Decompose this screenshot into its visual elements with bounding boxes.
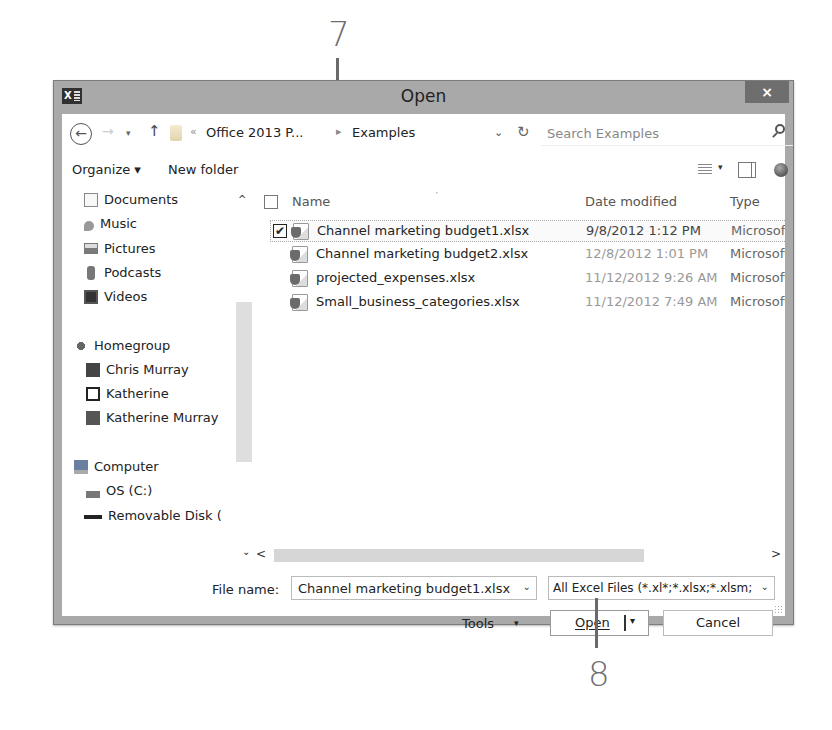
close-button[interactable]: ×	[745, 81, 789, 103]
file-date: 12/8/2012 1:01 PM	[585, 246, 708, 261]
user-avatar-icon	[86, 387, 100, 401]
help-icon[interactable]	[774, 163, 788, 177]
address-dropdown[interactable]: ⌄	[494, 126, 503, 139]
column-header-name[interactable]: Name	[292, 194, 330, 209]
drive-icon	[86, 484, 100, 498]
view-dropdown-arrow[interactable]: ▾	[718, 162, 723, 172]
folder-icon	[170, 125, 182, 141]
chevron-down-icon: ⌄	[761, 581, 769, 592]
breadcrumb-office-2013[interactable]: Office 2013 P...	[206, 125, 304, 140]
file-type: Microsoft	[730, 246, 785, 261]
file-row[interactable]: Small_business_categories.xlsx 11/12/201…	[270, 292, 785, 314]
up-button[interactable]: ↑	[148, 122, 161, 140]
scroll-right-icon[interactable]: >	[771, 547, 781, 561]
file-type-filter-dropdown[interactable]: All Excel Files (*.xl*;*.xlsx;*.xlsm; ⌄	[548, 576, 775, 600]
cancel-button[interactable]: Cancel	[663, 610, 773, 636]
excel-file-icon	[292, 246, 308, 263]
recent-locations-dropdown[interactable]: ▾	[126, 128, 131, 138]
nav-item-computer[interactable]: Computer	[74, 459, 159, 474]
nav-item-videos[interactable]: Videos	[84, 289, 147, 304]
excel-file-icon	[292, 294, 308, 311]
refresh-button[interactable]: ↻	[517, 123, 530, 141]
open-label: Open	[575, 615, 610, 630]
callout-number-8: 8	[588, 654, 610, 694]
file-date: 11/12/2012 7:49 AM	[585, 294, 718, 309]
nav-item-katherine[interactable]: Katherine	[86, 386, 169, 401]
nav-item-label: Katherine	[106, 386, 169, 401]
open-button[interactable]: Open ▾	[550, 610, 649, 636]
nav-item-label: Music	[100, 216, 137, 231]
column-header-type[interactable]: Type	[730, 194, 760, 209]
nav-scroll-down-icon[interactable]: ⌄	[242, 546, 250, 557]
nav-item-label: Pictures	[104, 241, 155, 256]
back-button[interactable]: ←	[70, 123, 92, 145]
new-folder-button[interactable]: New folder	[168, 162, 238, 177]
nav-item-label: Computer	[94, 459, 159, 474]
file-name-combobox: ⌄	[291, 576, 537, 600]
organize-button[interactable]: Organize ▾	[72, 162, 141, 177]
user-avatar-icon	[86, 363, 100, 377]
preview-pane-icon[interactable]	[738, 162, 756, 178]
file-type: Microsoft	[731, 223, 785, 238]
nav-pane-scrollbar[interactable]	[236, 302, 252, 462]
horizontal-scrollbar[interactable]: < >	[252, 548, 785, 564]
column-header-row: Name ^ Date modified Type	[260, 192, 785, 218]
row-checkbox-checked[interactable]: ✔	[273, 224, 287, 238]
documents-icon	[84, 193, 98, 207]
excel-file-icon	[292, 270, 308, 287]
podcasts-icon	[87, 266, 95, 280]
user-avatar-icon	[86, 411, 100, 425]
file-type: Microsoft	[730, 294, 785, 309]
nav-item-label: Homegroup	[94, 338, 170, 353]
nav-item-documents[interactable]: Documents	[84, 192, 178, 207]
column-header-date-modified[interactable]: Date modified	[585, 194, 677, 209]
chevron-down-icon[interactable]: ⌄	[523, 581, 531, 592]
callout-line-8	[595, 598, 598, 648]
search-input[interactable]	[541, 120, 761, 146]
callout-number-7: 7	[328, 14, 350, 54]
nav-item-homegroup[interactable]: Homegroup	[74, 338, 170, 353]
breadcrumb-overflow[interactable]: «	[190, 125, 197, 138]
nav-scroll-up-icon[interactable]: ^	[238, 194, 246, 205]
tools-button[interactable]: Tools	[462, 616, 494, 631]
view-options-icon[interactable]	[698, 164, 712, 176]
command-toolbar: Organize ▾ New folder ▾	[62, 158, 785, 186]
split-divider	[624, 615, 626, 631]
tools-dropdown-arrow[interactable]: ▾	[514, 618, 519, 628]
dialog-title: Open	[54, 86, 793, 106]
search-icon[interactable]	[775, 124, 785, 134]
pictures-icon	[84, 243, 98, 254]
file-name: Channel marketing budget2.xlsx	[316, 246, 528, 261]
file-row[interactable]: Channel marketing budget2.xlsx 12/8/2012…	[270, 244, 785, 266]
select-all-checkbox[interactable]	[264, 195, 278, 209]
open-dropdown-arrow[interactable]: ▾	[630, 615, 635, 626]
nav-item-removable-disk[interactable]: Removable Disk (	[84, 508, 222, 523]
nav-item-label: Documents	[104, 192, 178, 207]
file-name-label: File name:	[212, 582, 279, 597]
sort-indicator-icon: ^	[433, 192, 445, 200]
nav-item-katherine-murray[interactable]: Katherine Murray	[86, 410, 219, 425]
file-name-input[interactable]	[292, 577, 514, 599]
nav-item-os-c[interactable]: OS (C:)	[86, 483, 152, 498]
file-list: Name ^ Date modified Type ✔ Channel mark…	[260, 192, 785, 512]
file-date: 9/8/2012 1:12 PM	[586, 223, 701, 238]
scrollbar-thumb[interactable]	[274, 549, 644, 562]
nav-item-chris-murray[interactable]: Chris Murray	[86, 362, 189, 377]
nav-item-pictures[interactable]: Pictures	[84, 241, 155, 256]
nav-item-podcasts[interactable]: Podcasts	[84, 265, 161, 280]
usb-drive-icon	[84, 509, 102, 523]
scroll-left-icon[interactable]: <	[256, 547, 266, 561]
resize-grip[interactable]	[774, 605, 782, 613]
nav-item-music[interactable]: Music	[84, 216, 137, 231]
title-bar[interactable]: X Open ×	[54, 81, 793, 111]
breadcrumb-separator[interactable]: ▸	[336, 125, 342, 138]
file-name: Channel marketing budget1.xlsx	[317, 223, 529, 238]
file-row[interactable]: projected_expenses.xlsx 11/12/2012 9:26 …	[270, 268, 785, 290]
forward-button[interactable]: →	[102, 123, 114, 139]
file-row-selected[interactable]: ✔ Channel marketing budget1.xlsx 9/8/201…	[270, 220, 785, 242]
search-box	[541, 120, 793, 146]
file-type-filter-value: All Excel Files (*.xl*;*.xlsx;*.xlsm;	[553, 581, 752, 595]
nav-item-label: Katherine Murray	[106, 410, 219, 425]
breadcrumb-examples[interactable]: Examples	[352, 125, 415, 140]
nav-item-label: Removable Disk (	[108, 508, 222, 523]
